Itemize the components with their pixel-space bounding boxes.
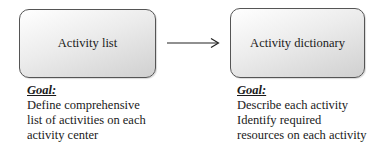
goal-line: Define comprehensive — [27, 98, 146, 113]
goal-line: resources on each activity — [237, 128, 366, 143]
activity-list-goal: Goal: Define comprehensive list of activ… — [27, 83, 146, 143]
goal-line: Describe each activity — [237, 98, 366, 113]
arrow-right-icon — [167, 37, 221, 49]
activity-list-label: Activity list — [58, 36, 117, 51]
goal-line: Identify required — [237, 113, 366, 128]
activity-list-box: Activity list — [19, 9, 156, 78]
goal-line: activity center — [27, 128, 146, 143]
goal-title: Goal: — [237, 83, 366, 98]
goal-title: Goal: — [27, 83, 146, 98]
goal-line: list of activities on each — [27, 113, 146, 128]
activity-dictionary-label: Activity dictionary — [250, 36, 345, 51]
activity-dictionary-goal: Goal: Describe each activity Identify re… — [237, 83, 366, 143]
activity-dictionary-box: Activity dictionary — [230, 8, 365, 78]
